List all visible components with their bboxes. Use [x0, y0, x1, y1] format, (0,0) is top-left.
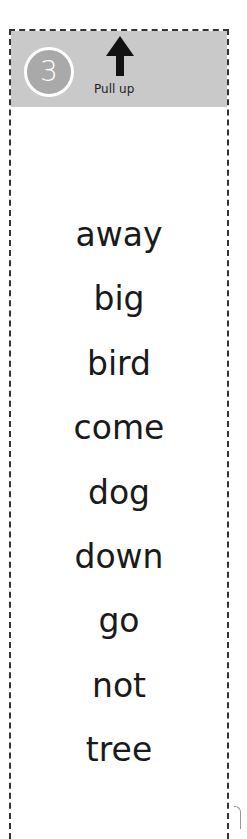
- step-number-badge: 3: [24, 47, 74, 97]
- header-band: 3 Pull up: [11, 31, 227, 107]
- word-strip: 3 Pull up away big bird come dog down go…: [9, 29, 229, 839]
- word-item: dog: [11, 461, 227, 525]
- word-item: tree: [11, 718, 227, 782]
- pull-up-label: Pull up: [94, 82, 134, 96]
- word-item: go: [11, 589, 227, 653]
- word-item: come: [11, 396, 227, 460]
- word-item: not: [11, 654, 227, 718]
- scan-artifact: [234, 806, 241, 829]
- word-item: bird: [11, 332, 227, 396]
- word-item: down: [11, 525, 227, 589]
- arrow-up-icon: [106, 36, 134, 76]
- word-list: away big bird come dog down go not tree: [11, 203, 227, 783]
- word-item: big: [11, 267, 227, 331]
- word-item: away: [11, 203, 227, 267]
